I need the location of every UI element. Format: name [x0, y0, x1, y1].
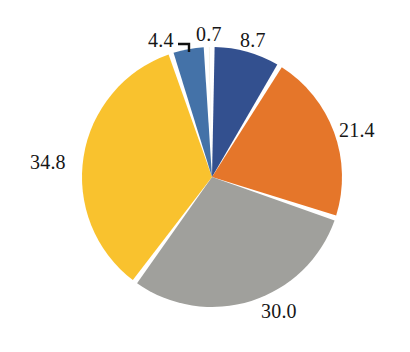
pie-label-0-7: 0.7	[196, 24, 222, 44]
pie-label-34-8: 34.8	[30, 152, 66, 172]
pie-label-30-0: 30.0	[261, 301, 297, 321]
pie-chart-canvas	[0, 0, 410, 352]
pie-label-21-4: 21.4	[339, 120, 375, 140]
pie-label-4-4: 4.4	[148, 30, 174, 50]
pie-slices-group	[82, 47, 342, 307]
pie-chart: 8.7 21.4 30.0 34.8 4.4 0.7	[0, 0, 410, 352]
pie-label-8-7: 8.7	[240, 30, 266, 50]
